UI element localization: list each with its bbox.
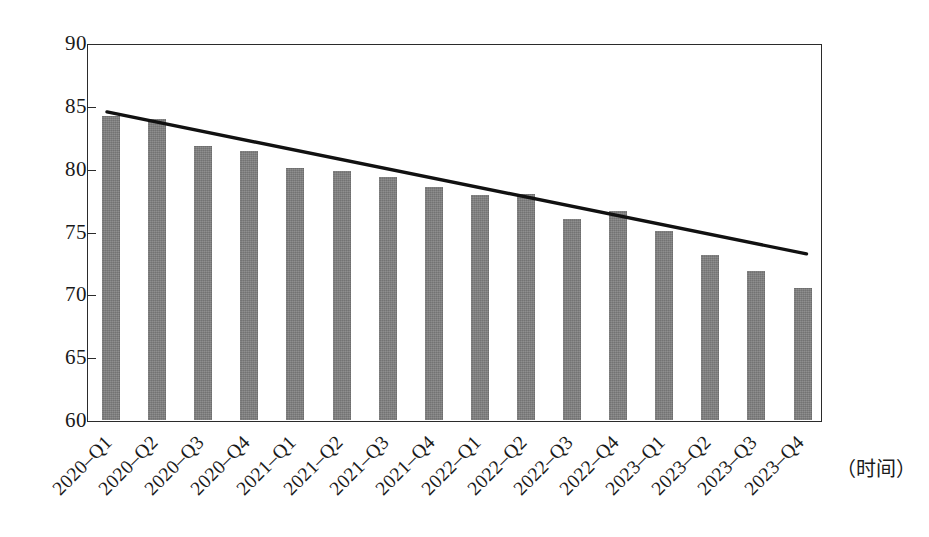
y-axis-tick-label: 65 bbox=[43, 347, 87, 368]
bar bbox=[655, 231, 673, 420]
y-axis-tick-label: 90 bbox=[43, 33, 87, 54]
bar bbox=[425, 187, 443, 420]
y-axis-tick-mark bbox=[87, 295, 96, 296]
bar bbox=[563, 219, 581, 421]
bar bbox=[747, 271, 765, 420]
x-axis-title: （时间） bbox=[836, 459, 916, 479]
bar bbox=[471, 195, 489, 420]
bar bbox=[102, 116, 120, 421]
y-axis-tick-mark bbox=[87, 170, 96, 171]
y-axis-tick-mark bbox=[87, 233, 96, 234]
bar bbox=[517, 194, 535, 421]
y-axis-tick-label: 60 bbox=[43, 410, 87, 431]
bar bbox=[240, 151, 258, 420]
bar bbox=[333, 171, 351, 420]
y-axis-tick-label: 80 bbox=[43, 159, 87, 180]
bar bbox=[194, 146, 212, 420]
y-axis-tick-mark bbox=[87, 107, 96, 108]
y-axis-tick-label: 70 bbox=[43, 284, 87, 305]
bar bbox=[609, 211, 627, 420]
y-axis-tick-label: 85 bbox=[43, 96, 87, 117]
bar bbox=[794, 288, 812, 420]
y-axis-tick-mark bbox=[87, 358, 96, 359]
y-axis: 90858075706560 bbox=[0, 0, 87, 537]
bar bbox=[701, 255, 719, 420]
bar bbox=[286, 168, 304, 420]
bar bbox=[148, 119, 166, 420]
y-axis-tick-label: 75 bbox=[43, 222, 87, 243]
chart-figure: 90858075706560 2020–Q12020–Q22020–Q32020… bbox=[0, 0, 929, 537]
bar bbox=[379, 177, 397, 420]
